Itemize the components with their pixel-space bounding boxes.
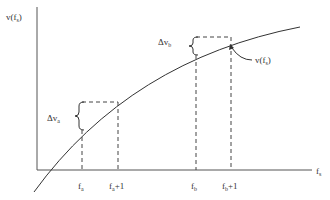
delta-a-label: Δva: [47, 113, 60, 124]
tick-fb-plus-1: fb+1: [222, 181, 238, 192]
brace-a: [75, 102, 84, 130]
delta-b-label: Δvb: [158, 37, 171, 48]
curve-v-fs: [34, 27, 300, 192]
tick-fa: fa: [78, 181, 84, 192]
tick-fb: fb: [191, 181, 197, 192]
curve-label: v(fs): [255, 55, 271, 66]
tick-fa-plus-1: fa+1: [109, 181, 124, 192]
concave-function-diagram: v(fs) fs v(fs) Δva Δvb fa fa+1 fb fb+1: [0, 0, 330, 200]
curve-label-pointer: [232, 48, 252, 60]
y-axis-label: v(fs): [6, 12, 22, 23]
brace-b: [189, 37, 198, 55]
x-axis-label: fs: [316, 166, 322, 177]
